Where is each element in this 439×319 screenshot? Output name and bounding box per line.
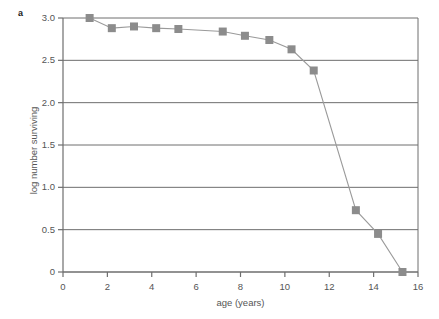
x-tick-label: 6 (184, 281, 208, 292)
y-tick-label: 1.0 (25, 181, 55, 192)
y-tick-label: 0.5 (25, 224, 55, 235)
x-tick-label: 14 (362, 281, 386, 292)
data-point-marker (241, 32, 249, 40)
data-point-marker (219, 28, 227, 36)
axis-ticks (58, 18, 418, 277)
data-point-marker (108, 24, 116, 32)
y-tick-label: 2.5 (25, 54, 55, 65)
y-tick-label: 3.0 (25, 12, 55, 23)
data-point-marker (130, 22, 138, 30)
x-tick-label: 4 (140, 281, 164, 292)
data-point-marker (265, 36, 273, 44)
data-point-marker (152, 24, 160, 32)
data-point-marker (310, 66, 318, 74)
plot-area (0, 0, 439, 319)
y-tick-label: 1.5 (25, 139, 55, 150)
survivorship-curve-figure: a log number surviving age (years) 00.51… (0, 0, 439, 319)
x-tick-label: 10 (273, 281, 297, 292)
data-point-marker (398, 268, 406, 276)
data-point-marker (374, 230, 382, 238)
x-tick-label: 12 (317, 281, 341, 292)
y-tick-label: 2.0 (25, 97, 55, 108)
data-point-marker (288, 45, 296, 53)
x-tick-label: 0 (51, 281, 75, 292)
data-point-marker (86, 14, 94, 22)
gridlines (63, 18, 418, 272)
x-tick-label: 2 (95, 281, 119, 292)
y-tick-label: 0 (25, 266, 55, 277)
data-point-marker (352, 206, 360, 214)
data-point-marker (174, 25, 182, 33)
x-tick-label: 8 (229, 281, 253, 292)
x-tick-label: 16 (406, 281, 430, 292)
